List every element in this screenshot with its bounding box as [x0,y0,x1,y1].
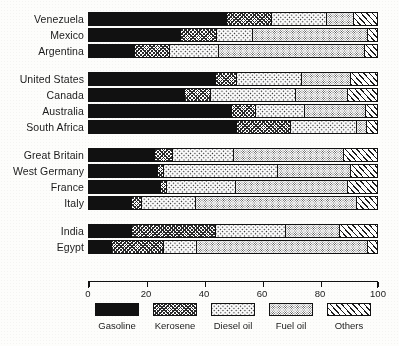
legend-item-kerosene[interactable]: Kerosene [146,303,204,332]
bar-segment-others [344,149,377,161]
bar-segment-others [351,73,377,85]
bar-row [88,164,378,178]
bar-segment-kerosene [132,197,142,209]
bar-segment-fuel_oil [302,73,351,85]
category-label-south-africa: South Africa [0,120,84,134]
bar-row [88,196,378,210]
bar-segment-gasoline [89,29,181,41]
legend-swatch-fuel_oil [269,303,313,316]
bar-segment-others [348,181,377,193]
category-label-text: Argentina [0,44,84,58]
x-axis-tick [147,282,148,287]
bar-segment-diesel_oil [142,197,195,209]
bar-segment-gasoline [89,197,132,209]
category-label-argentina: Argentina [0,44,84,58]
category-label-west-germany: West Germany [0,164,84,178]
x-axis-tick-label: 0 [85,288,90,299]
legend-label-text: Kerosene [146,319,204,332]
x-axis-tick [263,282,264,287]
chart-legend: GasolineKeroseneDiesel oilFuel oilOthers [88,303,378,343]
bar-segment-diesel_oil [216,225,287,237]
stacked-bar-chart: VenezuelaMexicoArgentinaUnited StatesCan… [0,0,399,346]
bar-segment-kerosene [232,105,256,117]
bar-segment-gasoline [89,89,185,101]
bar-segment-kerosene [181,29,217,41]
legend-swatch-diesel_oil [211,303,255,316]
bar-segment-gasoline [89,241,112,253]
category-label-india: India [0,224,84,238]
x-axis-tick-label: 80 [315,288,326,299]
bar-segment-others [348,89,377,101]
bar-segment-others [365,45,377,57]
bar-row [88,148,378,162]
bar-segment-others [340,225,377,237]
bar-row [88,180,378,194]
bar-segment-kerosene [227,13,272,25]
legend-item-others[interactable]: Others [320,303,378,332]
category-label-text: Canada [0,88,84,102]
category-label-france: France [0,180,84,194]
category-label-text: South Africa [0,120,84,134]
bar-segment-fuel_oil [357,121,367,133]
x-axis-tick-label: 60 [257,288,268,299]
legend-swatch-gasoline [95,303,139,316]
bar-segment-gasoline [89,121,237,133]
bar-segment-others [366,105,378,117]
x-axis-tick-label: 40 [199,288,210,299]
bar-segment-gasoline [89,165,158,177]
bar-segment-diesel_oil [167,181,236,193]
legend-item-fuel_oil[interactable]: Fuel oil [262,303,320,332]
bar-segment-gasoline [89,13,227,25]
category-label-text: Venezuela [0,12,84,26]
bar-segment-fuel_oil [236,181,348,193]
bar-segment-diesel_oil [164,165,278,177]
bar-segment-others [368,241,377,253]
legend-item-gasoline[interactable]: Gasoline [88,303,146,332]
category-label-text: France [0,180,84,194]
bar-row [88,88,378,102]
bar-segment-diesel_oil [256,105,305,117]
x-axis-tick [378,282,379,287]
category-label-canada: Canada [0,88,84,102]
bar-segment-diesel_oil [170,45,219,57]
bar-segment-fuel_oil [234,149,343,161]
legend-item-diesel_oil[interactable]: Diesel oil [204,303,262,332]
bar-segment-fuel_oil [196,197,357,209]
bar-segment-others [351,165,377,177]
bar-row [88,28,378,42]
bar-segment-diesel_oil [217,29,253,41]
category-label-egypt: Egypt [0,240,84,254]
bar-segment-kerosene [216,73,238,85]
category-label-venezuela: Venezuela [0,12,84,26]
bar-segment-gasoline [89,149,155,161]
bar-segment-diesel_oil [272,13,327,25]
bar-segment-gasoline [89,73,216,85]
bar-row [88,72,378,86]
legend-label-text: Others [320,319,378,332]
bar-row [88,240,378,254]
bar-segment-fuel_oil [305,105,365,117]
bar-segment-diesel_oil [173,149,235,161]
category-label-united-states: United States [0,72,84,86]
x-axis-tick-label: 100 [370,288,386,299]
bar-segment-gasoline [89,225,132,237]
bar-row [88,12,378,26]
category-label-text: Italy [0,196,84,210]
bar-segment-fuel_oil [197,241,368,253]
bar-row [88,104,378,118]
category-label-text: Mexico [0,28,84,42]
category-label-mexico: Mexico [0,28,84,42]
bar-segment-others [354,13,377,25]
bar-row [88,44,378,58]
x-axis-tick-label: 20 [141,288,152,299]
bar-segment-gasoline [89,181,161,193]
bar-segment-fuel_oil [296,89,348,101]
category-label-text: Great Britain [0,148,84,162]
x-axis-tick [89,282,90,287]
category-label-text: Egypt [0,240,84,254]
bar-segment-diesel_oil [237,73,302,85]
bar-segment-fuel_oil [219,45,366,57]
bar-segment-kerosene [135,45,170,57]
legend-label-text: Fuel oil [262,319,320,332]
bar-segment-diesel_oil [211,89,296,101]
